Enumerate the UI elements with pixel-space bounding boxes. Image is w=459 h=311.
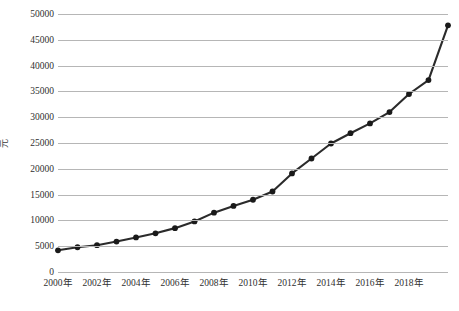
data-point-marker <box>348 130 354 136</box>
gridline <box>58 169 448 170</box>
data-point-marker <box>270 189 276 195</box>
data-point-marker <box>153 230 159 236</box>
gridline <box>58 40 448 41</box>
data-point-marker <box>289 171 295 177</box>
y-axis-tick-label: 5000 <box>14 241 54 251</box>
y-axis-tick-label: 20000 <box>14 164 54 174</box>
line-chart: 元 50000450004000035000300002500020000150… <box>0 0 459 311</box>
y-axis-tick-label: 30000 <box>14 112 54 122</box>
data-point-marker <box>231 203 237 209</box>
data-point-marker <box>94 242 100 248</box>
y-axis-tick-label: 10000 <box>14 215 54 225</box>
series-line <box>58 25 448 250</box>
data-point-marker <box>445 22 451 28</box>
gridline <box>58 14 448 15</box>
gridline <box>58 143 448 144</box>
gridline <box>58 220 448 221</box>
y-axis-tick-label: 25000 <box>14 138 54 148</box>
y-axis-tick-label: 45000 <box>14 35 54 45</box>
gridline <box>58 117 448 118</box>
gridline <box>58 91 448 92</box>
y-axis-tick-label: 35000 <box>14 86 54 96</box>
y-axis-tick-label: 40000 <box>14 61 54 71</box>
plot-area <box>58 14 448 272</box>
gridline <box>58 246 448 247</box>
data-point-marker <box>75 244 81 250</box>
data-point-marker <box>309 156 315 162</box>
data-point-marker <box>250 197 256 203</box>
data-point-marker <box>192 219 198 225</box>
data-point-marker <box>426 77 432 83</box>
data-point-marker <box>367 120 373 126</box>
x-axis-tick-label: 2018年 <box>379 277 439 289</box>
gridline <box>58 195 448 196</box>
y-axis-tick-label: 0 <box>14 267 54 277</box>
y-axis-tick-labels: 5000045000400003500030000250002000015000… <box>14 0 54 311</box>
gridline <box>58 272 448 273</box>
y-axis-tick-label: 50000 <box>14 9 54 19</box>
data-point-marker <box>172 225 178 231</box>
data-point-marker <box>133 235 139 241</box>
y-axis-tick-label: 15000 <box>14 190 54 200</box>
data-point-marker <box>211 210 217 216</box>
gridline <box>58 66 448 67</box>
data-point-marker <box>55 247 61 253</box>
data-point-marker <box>387 109 393 115</box>
x-axis-tick-labels: 2000年2002年2004年2006年2008年2010年2012年2014年… <box>0 277 459 293</box>
data-point-marker <box>114 239 120 245</box>
